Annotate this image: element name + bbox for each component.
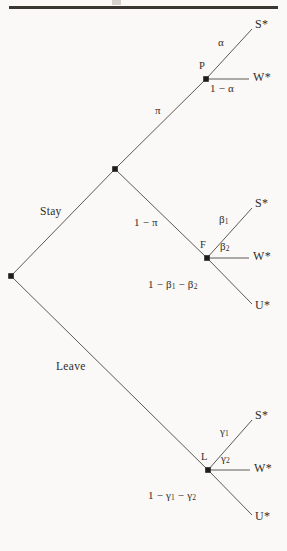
node-label-p: P <box>199 61 205 72</box>
edge-p-success <box>206 29 252 79</box>
node-label-f: F <box>200 240 206 251</box>
prob-gamma1-subscript: 1 <box>225 429 229 438</box>
node-l-marker <box>205 467 211 473</box>
outcome-label-f-success: S* <box>255 197 268 209</box>
node-label-l: L <box>201 452 208 463</box>
prob-label-beta1: β1 <box>219 214 229 226</box>
prob-residual-gamma-middle: − γ <box>175 489 192 501</box>
prob-label-alpha: α <box>218 37 224 48</box>
edge-root-leave <box>11 276 208 470</box>
prob-gamma2-subscript: 2 <box>226 456 230 465</box>
edge-l-success <box>208 420 252 470</box>
outcome-label-f-wait: W* <box>253 250 271 262</box>
outcome-label-p-wait: W* <box>253 71 271 83</box>
outcome-label-l-success: S* <box>255 409 268 421</box>
outcome-label-l-unemployed: U* <box>255 510 270 522</box>
figure-page: Stay Leave P F L π α 1 − α 1 − π β1 β2 1… <box>0 0 287 551</box>
node-p-marker <box>203 76 209 82</box>
edge-root-stay <box>11 169 115 276</box>
prob-beta1-subscript: 1 <box>225 217 229 226</box>
prob-label-one-minus-gamma1-gamma2: 1 − γ1 − γ2 <box>148 490 196 502</box>
prob-beta2-subscript: 2 <box>226 244 230 253</box>
prob-residual-beta-prefix: 1 − β <box>148 278 172 290</box>
prob-residual-gamma-prefix: 1 − γ <box>148 489 171 501</box>
prob-label-gamma1: γ1 <box>220 426 229 438</box>
edge-stay-f <box>115 169 207 258</box>
outcome-label-l-wait: W* <box>254 462 272 474</box>
node-f-marker <box>204 255 210 261</box>
node-stay-marker <box>112 166 118 172</box>
prob-label-one-minus-alpha: 1 − α <box>210 83 234 94</box>
prob-residual-gamma2-subscript: 2 <box>192 493 196 502</box>
prob-label-one-minus-pi: 1 − π <box>134 217 158 228</box>
prob-label-pi: π <box>155 105 161 116</box>
prob-residual-beta-middle: − β <box>176 278 194 290</box>
outcome-label-p-success: S* <box>255 18 268 30</box>
prob-residual-beta2-subscript: 2 <box>194 282 198 291</box>
edge-l-unemployed <box>208 470 252 515</box>
prob-label-one-minus-beta1-beta2: 1 − β1 − β2 <box>148 279 197 291</box>
decision-label-stay: Stay <box>40 206 62 218</box>
outcome-label-f-unemployed: U* <box>255 299 270 311</box>
edge-stay-p <box>115 79 206 169</box>
edge-f-unemployed <box>207 258 252 304</box>
prob-label-gamma2: γ2 <box>221 453 230 465</box>
node-root-marker <box>8 273 14 279</box>
prob-label-beta2: β2 <box>220 241 230 253</box>
node-markers <box>8 76 211 473</box>
decision-tree-graphic <box>0 0 287 551</box>
decision-label-leave: Leave <box>56 361 86 373</box>
